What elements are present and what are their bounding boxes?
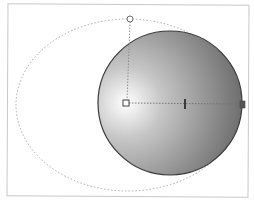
gradient-circle[interactable] bbox=[98, 31, 242, 175]
square-handle-icon[interactable] bbox=[123, 100, 129, 106]
end-handle-icon[interactable] bbox=[240, 101, 245, 108]
circle-handle-icon[interactable] bbox=[127, 16, 133, 22]
tick-mark-icon[interactable] bbox=[184, 99, 186, 109]
drawing-canvas[interactable] bbox=[0, 0, 254, 202]
editor-stage bbox=[0, 0, 254, 202]
